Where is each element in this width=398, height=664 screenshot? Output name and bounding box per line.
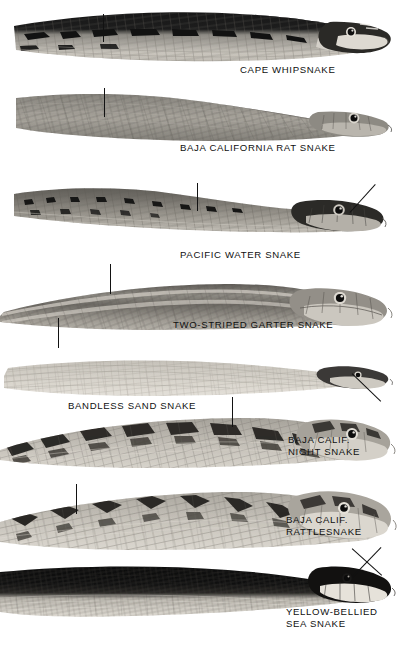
specimen-illustration-cape-whipsnake [0, 4, 398, 74]
leader-line-cape-whipsnake [103, 14, 104, 42]
leader-line-baja-california-rat-snake [104, 88, 105, 117]
caption-pacific-water-snake: PACIFIC WATER SNAKE [180, 249, 301, 261]
leader-line-pacific-water-snake [197, 183, 198, 211]
leader-line-two-striped-garter-snake-lower [58, 318, 59, 348]
leader-line-baja-calif-night-snake [232, 397, 233, 427]
caption-baja-calif-rattlesnake: BAJA CALIF. RATTLESNAKE [286, 514, 362, 539]
leader-line-baja-calif-rattlesnake [76, 484, 77, 514]
caption-two-striped-garter-snake: TWO-STRIPED GARTER SNAKE [173, 319, 333, 331]
caption-baja-calif-night-snake: BAJA CALIF. NIGHT SNAKE [288, 434, 360, 459]
specimen-illustration-baja-california-rat-snake [0, 84, 398, 150]
caption-cape-whipsnake: CAPE WHIPSNAKE [240, 64, 335, 76]
specimen-illustration-two-striped-garter-snake [0, 268, 398, 348]
snake-illustration-plate: CAPE WHIPSNAKE [0, 0, 398, 664]
specimen-illustration-pacific-water-snake [0, 174, 398, 246]
leader-line-two-striped-garter-snake [110, 264, 111, 294]
head-detail-cape-whipsnake [319, 22, 391, 53]
caption-baja-california-rat-snake: BAJA CALIFORNIA RAT SNAKE [180, 142, 336, 154]
caption-yellow-bellied-sea-snake: YELLOW-BELLIED SEA SNAKE [286, 606, 378, 631]
